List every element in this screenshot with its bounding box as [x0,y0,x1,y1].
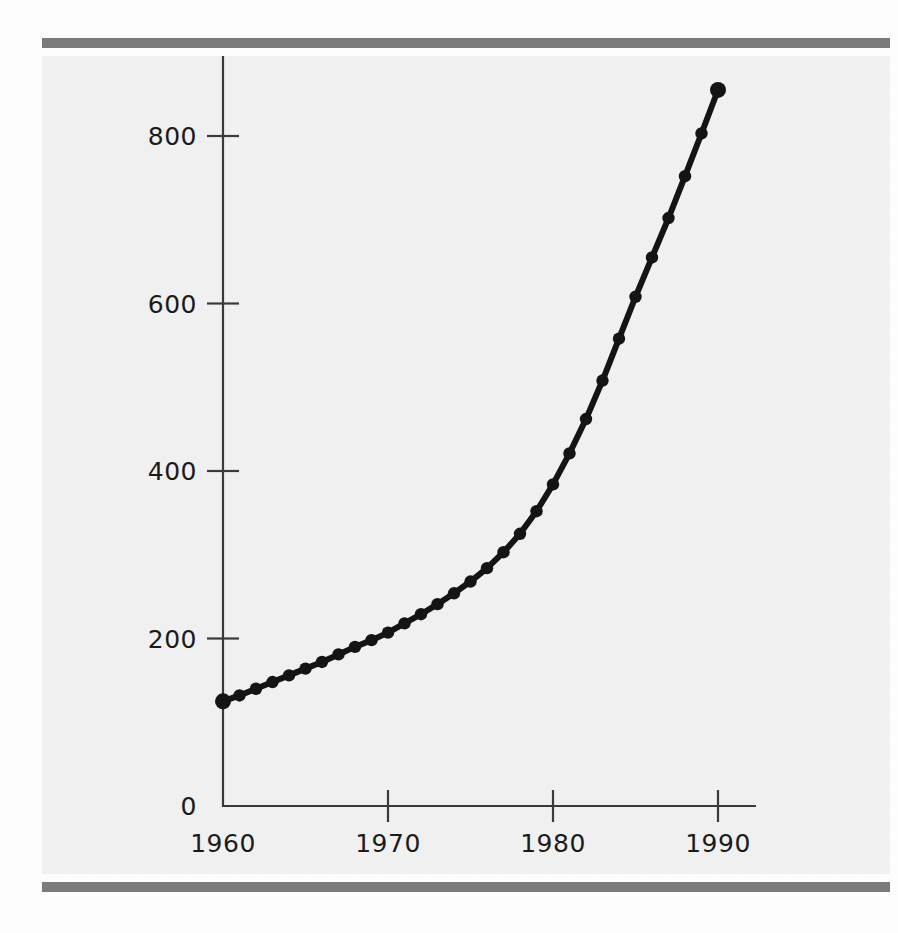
series-line [223,90,718,701]
data-point [679,170,691,182]
figure-plate: 0200400600800 1960197019801990 [42,56,890,874]
data-point [710,82,726,98]
x-tick-label: 1970 [355,829,421,858]
data-point [596,374,608,386]
data-point [415,608,427,620]
y-tick-label: 600 [148,290,197,319]
data-point [349,641,361,653]
data-point [215,693,231,709]
y-tick-label: 800 [148,122,197,151]
line-chart: 0200400600800 1960197019801990 [42,56,890,874]
data-point [299,662,311,674]
data-point [283,669,295,681]
data-point [580,413,592,425]
page-canvas: 0200400600800 1960197019801990 [0,0,898,933]
data-point [547,478,559,490]
data-point [514,528,526,540]
data-point [316,656,328,668]
x-tick-label: 1960 [190,829,256,858]
bottom-rule-bar [42,882,890,892]
data-point [365,634,377,646]
data-point [448,587,460,599]
data-point [497,546,509,558]
data-point [431,598,443,610]
y-axis-ticks: 0200400600800 [148,122,239,821]
data-point [481,562,493,574]
y-tick-label: 0 [181,792,197,821]
axis-spine [223,56,756,806]
top-rule-bar [42,38,890,48]
data-point [646,251,658,263]
data-point [250,683,262,695]
y-tick-label: 200 [148,625,197,654]
data-point [332,648,344,660]
data-point [382,626,394,638]
data-point [398,617,410,629]
y-tick-label: 400 [148,457,197,486]
data-point [629,291,641,303]
data-point [266,676,278,688]
data-point [530,505,542,517]
x-tick-label: 1980 [520,829,586,858]
data-point [695,127,707,139]
data-point [563,447,575,459]
data-point [233,689,245,701]
data-point [613,332,625,344]
data-series-group [215,82,726,709]
data-point [464,575,476,587]
x-tick-label: 1990 [685,829,751,858]
chart-axes [223,56,756,806]
data-point [662,212,674,224]
x-axis-ticks: 1960197019801990 [190,790,751,858]
